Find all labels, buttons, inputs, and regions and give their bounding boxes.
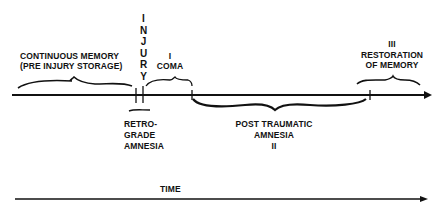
pta-numeral: II — [224, 141, 324, 152]
coma-brace — [146, 77, 192, 86]
pre-injury-label: CONTINUOUS MEMORY (PRE INJURY STORAGE) — [20, 51, 122, 71]
diagram-lines — [0, 0, 438, 210]
pta-brace — [193, 99, 366, 110]
pta-line2: AMNESIA — [224, 130, 324, 141]
injury-letter: I — [138, 13, 149, 25]
injury-letter: N — [138, 25, 149, 37]
time-axis-arrowhead — [420, 196, 428, 202]
restoration-line2: OF MEMORY — [352, 60, 432, 71]
pta-label: POST TRAUMATIC AMNESIA II — [224, 119, 324, 152]
pre-injury-brace — [18, 77, 132, 88]
retrograde-line1: RETRO- — [124, 119, 164, 130]
pre-injury-line2: (PRE INJURY STORAGE) — [20, 61, 122, 71]
restoration-numeral: III — [352, 39, 432, 50]
retrograde-brace — [129, 110, 150, 111]
restoration-brace — [357, 76, 420, 85]
injury-label: I N J U R Y — [138, 13, 149, 82]
coma-numeral: I — [153, 51, 187, 61]
timeline-arrowhead — [424, 91, 432, 99]
injury-letter: U — [138, 48, 149, 60]
restoration-line1: RESTORATION — [352, 50, 432, 61]
retrograde-line3: AMNESIA — [124, 141, 164, 152]
time-label: TIME — [160, 184, 181, 194]
injury-letter: Y — [138, 71, 149, 83]
coma-label: I COMA — [153, 51, 187, 71]
retrograde-label: RETRO- GRADE AMNESIA — [124, 119, 164, 152]
injury-letter: J — [138, 36, 149, 48]
pre-injury-line1: CONTINUOUS MEMORY — [20, 51, 122, 61]
restoration-label: III RESTORATION OF MEMORY — [352, 39, 432, 71]
injury-letter: R — [138, 59, 149, 71]
retrograde-line2: GRADE — [124, 130, 164, 141]
coma-text: COMA — [153, 61, 187, 71]
pta-line1: POST TRAUMATIC — [224, 119, 324, 130]
